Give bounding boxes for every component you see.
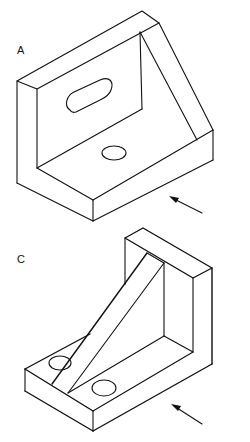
technical-drawing — [0, 0, 250, 442]
figure-c-view-arrow-icon — [171, 404, 202, 424]
figure-c-bracket — [25, 228, 212, 431]
figure-a-slot-hole — [67, 79, 112, 113]
figure-c-diagonal-rib — [52, 253, 164, 393]
figure-c-vertical-plate — [125, 228, 212, 364]
figure-a-view-arrow-icon — [169, 196, 202, 213]
figure-c-round-hole-right — [92, 380, 116, 396]
figure-a-round-hole — [102, 146, 126, 160]
figure-a-gusset — [140, 23, 213, 140]
figure-a-bracket — [17, 11, 213, 221]
figure-a-vertical-plate — [17, 11, 159, 183]
